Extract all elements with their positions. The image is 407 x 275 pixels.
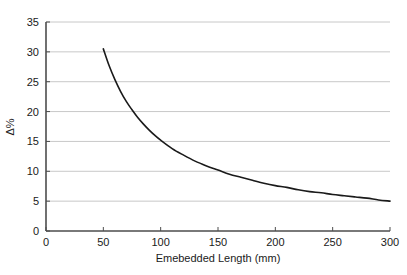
x-tick-label-150: 150 [209, 236, 227, 248]
x-tick-label-100: 100 [151, 236, 169, 248]
x-tick-label-50: 50 [97, 236, 109, 248]
chart-container: 050100150200250300 05101520253035 Emebed… [0, 0, 407, 275]
x-tick-label-250: 250 [323, 236, 341, 248]
y-tick-label-20: 20 [27, 106, 39, 118]
x-tick-label-0: 0 [43, 236, 49, 248]
y-tick-label-35: 35 [27, 16, 39, 28]
y-tick-label-5: 5 [33, 195, 39, 207]
y-axis-title: Δ% [4, 118, 16, 135]
x-axis-title: Emebedded Length (mm) [156, 252, 281, 264]
x-tick-label-300: 300 [381, 236, 399, 248]
y-tick-label-10: 10 [27, 165, 39, 177]
y-tick-label-25: 25 [27, 76, 39, 88]
chart-background [0, 0, 407, 275]
y-tick-label-0: 0 [33, 225, 39, 237]
y-tick-label-30: 30 [27, 46, 39, 58]
delta-percent-line-chart: 050100150200250300 05101520253035 Emebed… [0, 0, 407, 275]
x-tick-label-200: 200 [266, 236, 284, 248]
y-tick-label-15: 15 [27, 135, 39, 147]
